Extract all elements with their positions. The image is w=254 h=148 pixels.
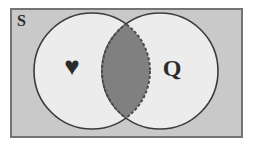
venn-circles-svg [0, 0, 254, 148]
heart-symbol-icon: ♥ [52, 52, 92, 82]
set-label-q: Q [152, 54, 192, 82]
venn-diagram-figure: S ♥ Q [0, 0, 254, 148]
